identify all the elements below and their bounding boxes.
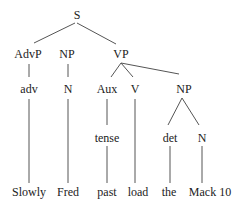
tree-node-w4: load bbox=[128, 186, 149, 198]
tree-node-w2: Fred bbox=[57, 186, 79, 198]
tree-node-aux: Aux bbox=[97, 83, 118, 95]
tree-node-w6: Mack 10 bbox=[189, 186, 231, 198]
tree-node-np2: NP bbox=[176, 83, 191, 95]
tree-node-w1: Slowly bbox=[12, 186, 46, 198]
tree-edge bbox=[182, 98, 199, 125]
tree-node-n2: N bbox=[198, 132, 207, 144]
tree-node-adv: adv bbox=[20, 83, 37, 95]
tree-edges bbox=[0, 0, 238, 209]
tree-edge bbox=[168, 98, 182, 125]
tree-node-np1: NP bbox=[59, 48, 74, 60]
tree-edge bbox=[34, 23, 75, 43]
tree-node-tense: tense bbox=[95, 132, 120, 144]
tree-edge bbox=[111, 63, 121, 77]
tree-edge bbox=[77, 23, 116, 44]
tree-node-n1: N bbox=[64, 83, 73, 95]
tree-node-advp: AdvP bbox=[14, 48, 41, 60]
tree-node-v: V bbox=[131, 83, 140, 95]
tree-node-w3: past bbox=[97, 186, 116, 198]
tree-node-det: det bbox=[163, 132, 178, 144]
tree-node-w5: the bbox=[162, 186, 177, 198]
tree-node-s: S bbox=[74, 9, 81, 21]
syntax-tree-diagram: SAdvPNPVPadvNAuxVNPtensedetNSlowlyFredpa… bbox=[0, 0, 238, 209]
tree-node-vp: VP bbox=[113, 48, 128, 60]
tree-edge bbox=[121, 63, 179, 74]
